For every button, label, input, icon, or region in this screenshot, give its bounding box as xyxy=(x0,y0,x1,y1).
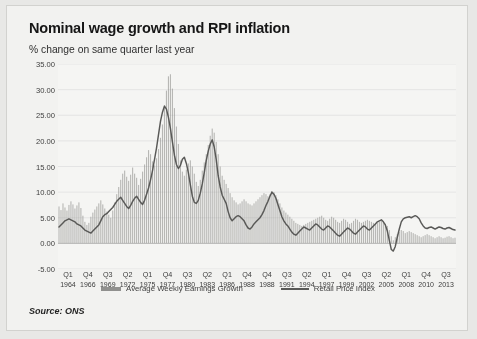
legend-bar-swatch-icon xyxy=(101,287,121,291)
y-axis-tick: 15.00 xyxy=(36,162,55,171)
y-axis-tick: 20.00 xyxy=(36,136,55,145)
source-note: Source: ONS xyxy=(29,306,85,316)
y-axis-tick: 10.00 xyxy=(36,188,55,197)
chart-canvas xyxy=(58,64,456,269)
legend-line-swatch-icon xyxy=(281,288,309,290)
y-axis-tick: -5.00 xyxy=(38,265,55,274)
legend-label: Average Weekly Earnings Growth xyxy=(126,284,243,293)
y-axis-tick: 0.00 xyxy=(40,239,55,248)
legend-item[interactable]: Retail Price Index xyxy=(281,284,375,293)
y-axis-tick: 30.00 xyxy=(36,85,55,94)
y-axis-tick: 35.00 xyxy=(36,60,55,69)
legend-label: Retail Price Index xyxy=(314,284,375,293)
legend-item[interactable]: Average Weekly Earnings Growth xyxy=(101,284,243,293)
chart-title: Nominal wage growth and RPI inflation xyxy=(29,20,290,36)
y-axis-tick: 25.00 xyxy=(36,111,55,120)
chart-figure: Nominal wage growth and RPI inflation % … xyxy=(6,5,468,331)
y-axis-tick: 5.00 xyxy=(40,213,55,222)
plot-area xyxy=(58,64,456,269)
chart-subtitle: % change on same quarter last year xyxy=(29,44,194,55)
chart-legend: Average Weekly Earnings GrowthRetail Pri… xyxy=(7,284,469,293)
y-axis-labels: 35.0030.0025.0020.0015.0010.005.000.00-5… xyxy=(19,64,55,269)
plot-container: 35.0030.0025.0020.0015.0010.005.000.00-5… xyxy=(19,64,459,269)
